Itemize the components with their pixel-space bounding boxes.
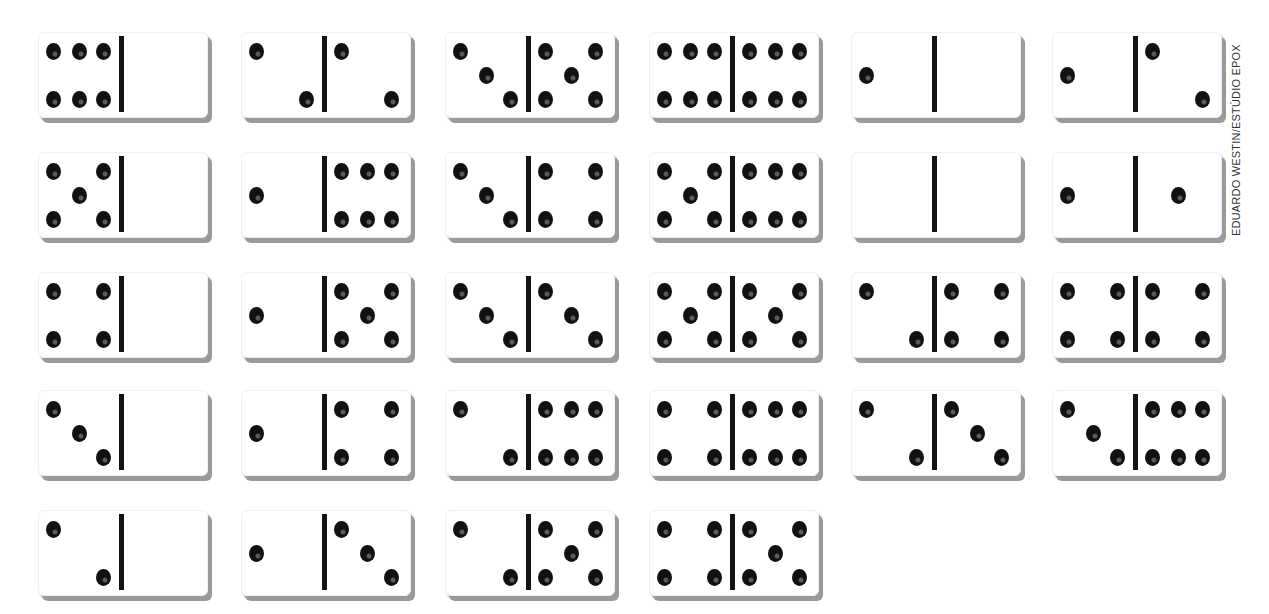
domino-half-left [446,33,526,117]
domino-2-2 [241,32,411,118]
domino-divider [119,514,124,590]
pip-icon [768,43,783,60]
domino-divider [1133,394,1138,470]
domino-2-4 [851,272,1021,358]
pip-icon [1171,187,1186,204]
domino-half-left [1053,153,1133,237]
pip-icon [588,163,603,180]
pip-icon [768,91,783,108]
domino-0-0 [851,152,1021,238]
domino-1-4 [241,390,411,476]
pip-icon [1195,91,1210,108]
domino-half-left [39,511,119,595]
pip-icon [657,163,672,180]
pip-icon [538,43,553,60]
pip-icon [859,67,874,84]
pip-icon [384,211,399,228]
pip-icon [657,521,672,538]
domino-divider [322,394,327,470]
domino-half-left [39,33,119,117]
pip-icon [72,43,87,60]
domino-half-left [39,391,119,475]
domino-5-0 [38,152,208,238]
domino-2-0 [38,510,208,596]
pip-icon [334,331,349,348]
pip-icon [1060,67,1075,84]
pip-icon [588,521,603,538]
pip-icon [792,91,807,108]
domino-4-5 [649,510,819,596]
pip-icon [657,91,672,108]
pip-icon [742,521,757,538]
pip-icon [334,163,349,180]
pip-icon [503,91,518,108]
pip-icon [657,211,672,228]
pip-icon [360,211,375,228]
domino-half-left [39,273,119,357]
pip-icon [46,163,61,180]
domino-half-right [937,391,1017,475]
pip-icon [96,331,111,348]
pip-icon [909,449,924,466]
pip-icon [707,569,722,586]
domino-half-right [1138,33,1218,117]
pip-icon [453,521,468,538]
domino-1-0 [851,32,1021,118]
pip-icon [96,211,111,228]
pip-icon [792,331,807,348]
pip-icon [1110,283,1125,300]
pip-icon [503,449,518,466]
domino-half-right [735,273,815,357]
pip-icon [72,425,87,442]
domino-half-right [937,153,1017,237]
pip-icon [859,283,874,300]
pip-icon [970,425,985,442]
domino-divider [322,276,327,352]
pip-icon [249,43,264,60]
domino-half-left [1053,33,1133,117]
pip-icon [742,401,757,418]
pip-icon [742,283,757,300]
pip-icon [249,307,264,324]
pip-icon [479,187,494,204]
pip-icon [1171,449,1186,466]
domino-divider [322,514,327,590]
domino-half-right [1138,153,1218,237]
pip-icon [683,43,698,60]
domino-half-left [242,273,322,357]
pip-icon [859,401,874,418]
pip-icon [46,91,61,108]
pip-icon [707,449,722,466]
pip-icon [657,569,672,586]
pip-icon [1145,401,1160,418]
pip-icon [1060,283,1075,300]
domino-1-5 [241,272,411,358]
pip-icon [96,91,111,108]
domino-divider [1133,276,1138,352]
domino-1-6 [241,152,411,238]
domino-half-right [327,153,407,237]
pip-icon [334,211,349,228]
pip-icon [994,283,1009,300]
domino-divider [1133,156,1138,232]
pip-icon [944,401,959,418]
pip-icon [742,43,757,60]
domino-half-right [735,33,815,117]
pip-icon [503,211,518,228]
pip-icon [683,91,698,108]
pip-icon [249,187,264,204]
pip-icon [72,91,87,108]
domino-half-left [852,33,932,117]
domino-half-right [735,153,815,237]
pip-icon [683,307,698,324]
pip-icon [707,91,722,108]
pip-icon [334,43,349,60]
domino-half-right [531,153,611,237]
domino-divider [322,36,327,112]
pip-icon [1145,449,1160,466]
domino-3-0 [38,390,208,476]
pip-icon [46,521,61,538]
domino-divider [526,394,531,470]
pip-icon [1110,331,1125,348]
pip-icon [707,283,722,300]
